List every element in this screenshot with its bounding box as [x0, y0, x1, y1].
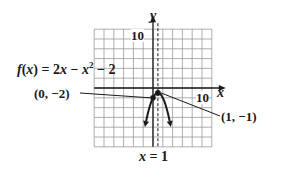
vertex-point-label: (1, −1)	[221, 110, 257, 123]
axis-of-symmetry-label: x = 1	[139, 150, 168, 164]
x-tick-label: 10	[196, 91, 209, 104]
y-axis-label: y	[150, 9, 156, 23]
y-tick-label: 10	[131, 29, 144, 42]
y-axis-letter: y	[150, 8, 156, 23]
intercept-point-label: (0, −2)	[34, 87, 70, 100]
graph-figure: y 10 10 x f(x) = 2x − x2 − 2 (0, −2) (1,…	[0, 0, 281, 177]
function-label: f(x) = 2x − x2 − 2	[17, 61, 115, 77]
x-axis-label: x	[217, 86, 224, 100]
